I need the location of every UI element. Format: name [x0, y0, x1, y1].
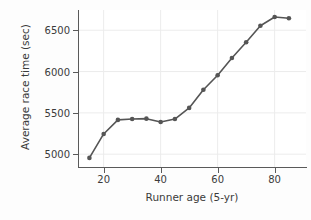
y-tick-label: 6000	[30, 66, 70, 77]
data-point	[144, 116, 149, 121]
data-point	[244, 40, 249, 45]
y-tick-label: 5000	[30, 149, 70, 160]
gridlines	[78, 10, 306, 167]
y-axis-spine	[78, 10, 79, 168]
x-tick-mark	[161, 168, 162, 173]
data-point	[230, 56, 235, 61]
data-point	[215, 73, 220, 78]
x-tick-label: 20	[84, 174, 124, 185]
y-tick-mark	[73, 113, 78, 114]
x-tick-mark	[104, 168, 105, 173]
x-tick-label: 40	[141, 174, 181, 185]
y-tick-label: 6500	[30, 25, 70, 36]
data-point	[272, 15, 277, 20]
data-point	[201, 87, 206, 92]
data-point	[173, 117, 178, 122]
data-point	[187, 106, 192, 111]
x-tick-mark	[218, 168, 219, 173]
data-point-markers	[87, 15, 291, 160]
data-point	[158, 120, 163, 125]
data-point	[130, 117, 135, 122]
plot-area	[78, 10, 306, 167]
y-tick-mark	[73, 72, 78, 73]
data-point	[87, 156, 92, 161]
y-tick-mark	[73, 154, 78, 155]
y-tick-label: 5500	[30, 107, 70, 118]
data-line	[89, 17, 289, 158]
y-tick-mark	[73, 30, 78, 31]
data-point	[258, 23, 263, 28]
x-tick-label: 60	[198, 174, 238, 185]
data-point	[101, 132, 106, 137]
x-axis-label: Runner age (5-yr)	[78, 191, 306, 203]
x-axis-spine	[78, 167, 307, 168]
x-tick-label: 80	[255, 174, 295, 185]
chart-figure: Average race time (sec) Runner age (5-yr…	[0, 0, 311, 220]
x-tick-mark	[275, 168, 276, 173]
data-point	[116, 118, 121, 123]
data-point	[287, 16, 292, 21]
line-chart-svg	[78, 10, 306, 167]
